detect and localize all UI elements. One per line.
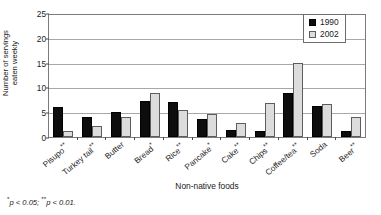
- bar-group: [221, 14, 250, 137]
- x-tick-label-cell: Butter: [106, 138, 135, 178]
- bar-1990: [111, 112, 121, 137]
- x-axis-tick-labels: Pisupo**Turkey tail**ButterBread*Rice**P…: [48, 138, 366, 178]
- legend: 1990 2002: [303, 14, 346, 43]
- bar-1990: [168, 102, 178, 137]
- x-tick-label: Bread*: [130, 140, 157, 165]
- legend-swatch-icon-1990: [309, 19, 316, 26]
- bar-1990: [82, 117, 92, 137]
- x-tick-label-cell: Coffee/tea**: [279, 138, 308, 178]
- bar-1990: [226, 130, 236, 137]
- bar-group: [78, 14, 107, 137]
- bar-group: [193, 14, 222, 137]
- x-axis-title: Non-native foods: [48, 181, 366, 191]
- x-tick-label-cell: Pancake*: [193, 138, 222, 178]
- footnote: *p < 0.05; **p < 0.01.: [7, 195, 76, 207]
- bar-group: [250, 14, 279, 137]
- bar-1990: [312, 106, 322, 137]
- x-tick-label-cell: Beer**: [337, 138, 366, 178]
- bar-1990: [283, 93, 293, 137]
- bar-2002: [207, 114, 217, 137]
- legend-swatch-icon-2002: [309, 31, 316, 38]
- y-tick-label: 5: [41, 108, 46, 118]
- footnote-text-double: p < 0.01.: [46, 198, 76, 207]
- x-tick-label: Cake**: [217, 140, 244, 165]
- bar-1990: [197, 119, 207, 137]
- y-tick-label: 10: [37, 83, 46, 93]
- footnote-text-single: p < 0.05;: [9, 198, 39, 207]
- bar-2002: [92, 126, 102, 137]
- y-tick-label: 0: [41, 133, 46, 143]
- bar-2002: [178, 110, 188, 137]
- y-axis-title: Number of servings eaten weekly: [1, 3, 31, 123]
- x-tick-label: Butter: [104, 140, 127, 161]
- y-tick-label: 15: [37, 59, 46, 69]
- bar-2002: [265, 103, 275, 137]
- bar-2002: [293, 63, 303, 137]
- bar-1990: [140, 101, 150, 137]
- y-tick-label: 20: [37, 34, 46, 44]
- x-tick-label: Soda: [308, 140, 328, 159]
- bar-2002: [150, 93, 160, 137]
- bar-2002: [121, 117, 131, 137]
- bar-group: [106, 14, 135, 137]
- bar-group: [49, 14, 78, 137]
- bar-2002: [322, 104, 332, 137]
- bar-1990: [53, 107, 63, 137]
- x-tick-label: Beer**: [334, 140, 359, 164]
- legend-label-1990: 1990: [320, 18, 339, 27]
- legend-item-2002: 2002: [309, 30, 339, 39]
- bar-group: [135, 14, 164, 137]
- bar-1990: [255, 131, 265, 137]
- bar-2002: [63, 131, 73, 137]
- x-tick-label-cell: Bread*: [135, 138, 164, 178]
- bar-1990: [341, 131, 351, 137]
- x-tick-label-cell: Soda: [308, 138, 337, 178]
- legend-item-1990: 1990: [309, 18, 339, 27]
- legend-label-2002: 2002: [320, 30, 339, 39]
- x-tick-label-cell: Turkey tail**: [77, 138, 106, 178]
- bar-2002: [236, 123, 246, 137]
- y-tick-label: 25: [37, 9, 46, 19]
- bar-group: [164, 14, 193, 137]
- bar-chart-figure: Number of servings eaten weekly 05101520…: [0, 0, 381, 215]
- bar-2002: [351, 117, 361, 137]
